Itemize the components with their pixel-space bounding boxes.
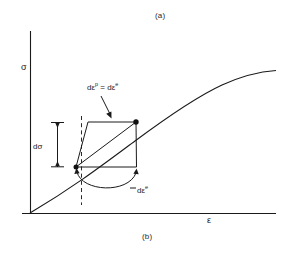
parallelogram-right-edge [136,122,137,167]
annotation-deps-e-sup: e [145,184,148,190]
annotation-equals-sign: = [98,83,107,92]
annotation-deps-e-base: dε [137,186,145,195]
x-axis-label: ε [207,215,211,225]
upper-state-point-marker [133,119,138,124]
dsigma-top-arrowhead [55,123,60,128]
figure-caption-a: (a) [155,11,165,20]
dsigma-bottom-arrowhead [55,161,60,166]
parallelogram-diagonal [76,122,136,167]
figure-caption-b: (b) [142,232,152,241]
annotation-deps-base-1: dε [87,83,95,92]
deps-label-leader-line [101,96,110,114]
lower-state-point-marker [74,165,79,170]
y-axis-label: σ [21,62,27,72]
annotation-plastic-equals-elastic: dεp = dεe [87,81,118,92]
stress-strain-figure: (a) [0,0,305,258]
annotation-deps-sup-2: e [115,81,118,87]
annotation-stress-increment: dσ [33,142,42,151]
deps-e-curved-arrow [77,172,136,188]
diagram-canvas [0,0,305,258]
deps-e-arrowhead-right [133,169,138,175]
stress-strain-curve [30,71,276,214]
annotation-elastic-increment: dεe [137,184,148,195]
